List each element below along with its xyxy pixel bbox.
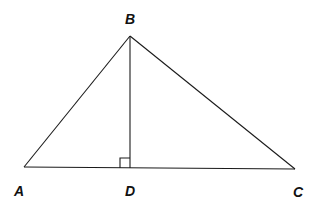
triangle-diagram: B A D C	[0, 0, 318, 206]
label-c: C	[293, 184, 304, 200]
right-angle-marker-icon	[120, 158, 130, 168]
segment-bc	[130, 36, 295, 169]
label-b: B	[125, 11, 135, 27]
segment-ab	[24, 36, 130, 167]
segment-ac	[24, 167, 295, 169]
label-a: A	[13, 183, 24, 199]
label-d: D	[125, 183, 135, 199]
